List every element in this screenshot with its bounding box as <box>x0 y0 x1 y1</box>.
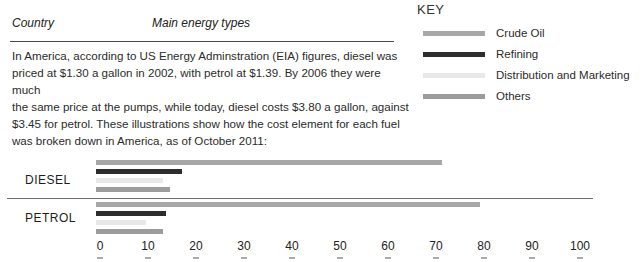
bar-diesel-others <box>96 187 170 192</box>
legend-swatch-icon <box>423 94 485 99</box>
intro-paragraph-line-5: was broken down in America, as of Octobe… <box>12 132 412 149</box>
intro-paragraph-line-4: $3.45 for petrol. These illustrations sh… <box>12 115 412 132</box>
category-label-diesel: DIESEL <box>25 173 71 187</box>
x-axis-tick-mark-20 <box>193 257 199 259</box>
legend-swatch-icon <box>423 73 485 78</box>
x-axis-tick-mark-10 <box>145 257 151 259</box>
legend-item-label: Crude Oil <box>496 27 545 39</box>
header-divider <box>10 41 394 42</box>
intro-paragraph: In America, according to US Energy Admin… <box>12 47 412 149</box>
legend-swatch-icon <box>423 31 485 36</box>
header-main-energy-types-label: Main energy types <box>152 16 250 30</box>
bar-diesel-refining <box>96 169 182 174</box>
x-axis-tick-label-20: 20 <box>189 239 202 253</box>
x-axis-tick-label-10: 10 <box>141 239 154 253</box>
x-axis-tick-label-60: 60 <box>381 239 394 253</box>
legend-item-crude-oil: Crude Oil <box>423 27 644 41</box>
x-axis-tick-label-80: 80 <box>477 239 490 253</box>
header-country-label: Country <box>12 16 54 30</box>
bar-petrol-crude-oil <box>96 202 480 207</box>
bar-petrol-others <box>96 229 163 234</box>
bar-petrol-distribution-and-marketing <box>96 220 146 225</box>
x-axis-tick-mark-50 <box>337 257 343 259</box>
legend-swatch-icon <box>423 52 485 57</box>
legend-item-label: Refining <box>496 48 538 60</box>
x-axis-tick-label-100: 100 <box>570 239 590 253</box>
legend-item-label: Distribution and Marketing <box>496 69 630 81</box>
x-axis-tick-mark-60 <box>385 257 391 259</box>
fuel-cost-bar-chart: DIESELPETROL 0102030405060708090100 <box>0 154 644 262</box>
x-axis-tick-mark-80 <box>481 257 487 259</box>
bar-diesel-crude-oil <box>96 160 442 165</box>
category-label-petrol: PETROL <box>25 211 76 225</box>
legend-item-refining: Refining <box>423 48 644 62</box>
x-axis-tick-mark-90 <box>529 257 535 259</box>
x-axis-tick-label-40: 40 <box>285 239 298 253</box>
x-axis-tick-mark-0 <box>97 257 103 259</box>
intro-paragraph-line-3: the same price at the pumps, while today… <box>12 98 412 115</box>
intro-paragraph-line-2: priced at $1.30 a gallon in 2002, with p… <box>12 64 412 98</box>
bar-petrol-refining <box>96 211 166 216</box>
page: Country Main energy types In America, ac… <box>0 0 644 262</box>
x-axis-tick-label-50: 50 <box>333 239 346 253</box>
x-axis-tick-mark-40 <box>289 257 295 259</box>
x-axis-tick-label-90: 90 <box>525 239 538 253</box>
x-axis-tick-label-30: 30 <box>237 239 250 253</box>
category-divider-line <box>7 198 593 199</box>
legend-item-others: Others <box>423 90 644 104</box>
x-axis-tick-mark-70 <box>433 257 439 259</box>
intro-paragraph-line-1: In America, according to US Energy Admin… <box>12 47 412 64</box>
x-axis-tick-mark-100 <box>577 257 583 259</box>
legend-item-distribution-and-marketing: Distribution and Marketing <box>423 69 644 83</box>
x-axis-tick-mark-30 <box>241 257 247 259</box>
bar-diesel-distribution-and-marketing <box>96 178 163 183</box>
legend-title: KEY <box>417 2 445 17</box>
x-axis-tick-label-70: 70 <box>429 239 442 253</box>
x-axis-tick-label-0: 0 <box>97 239 104 253</box>
legend-item-label: Others <box>496 90 531 102</box>
